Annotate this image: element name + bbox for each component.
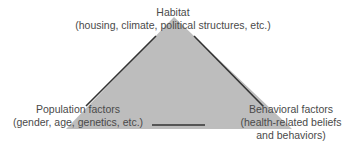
population-label: Population factors (gender, age, genetic… (0, 103, 156, 129)
behavioral-title: Behavioral factors (236, 103, 346, 116)
population-title: Population factors (0, 103, 156, 116)
behavioral-label: Behavioral factors (health-related belie… (236, 103, 346, 142)
habitat-label: Habitat (housing, climate, political str… (0, 6, 346, 32)
behavioral-subtitle-line2: and behaviors) (236, 129, 346, 142)
habitat-subtitle: (housing, climate, political structures,… (0, 19, 346, 32)
population-subtitle: (gender, age, genetics, etc.) (0, 116, 156, 129)
habitat-title: Habitat (0, 6, 346, 19)
behavioral-subtitle-line1: (health-related beliefs (236, 116, 346, 129)
